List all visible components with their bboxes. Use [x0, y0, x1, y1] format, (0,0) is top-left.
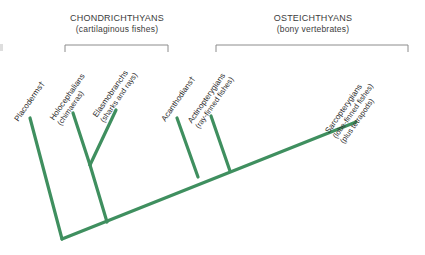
chondrichthyans-bracket-path — [65, 45, 168, 52]
osteichthyans-bracket — [216, 45, 408, 52]
branch-acanthodians — [177, 118, 198, 177]
group-label-chondrichthyans: CHONDRICHTHYANS (cartilaginous fishes) — [49, 13, 185, 35]
group-label-osteichthyans: OSTEICHTHYANS (bony vertebrates) — [235, 13, 391, 35]
chondrichthyans-bracket — [65, 45, 168, 52]
group-subtitle-osteichthyans: (bony vertebrates) — [235, 24, 391, 35]
cladogram-figure: CHONDRICHTHYANS (cartilaginous fishes) O… — [0, 0, 425, 255]
osteichthyans-bracket-path — [216, 45, 408, 52]
branch-actinopterygians — [211, 116, 230, 171]
group-name-chondrichthyans: CHONDRICHTHYANS — [70, 13, 164, 23]
group-name-osteichthyans: OSTEICHTHYANS — [274, 13, 352, 23]
phylogenetic-tree-graphic — [0, 0, 425, 255]
branch-chondrichthyan-stem — [90, 165, 107, 222]
branch-holocephalians — [73, 113, 90, 165]
branch-placoderms — [30, 118, 62, 239]
group-subtitle-chondrichthyans: (cartilaginous fishes) — [49, 24, 185, 35]
